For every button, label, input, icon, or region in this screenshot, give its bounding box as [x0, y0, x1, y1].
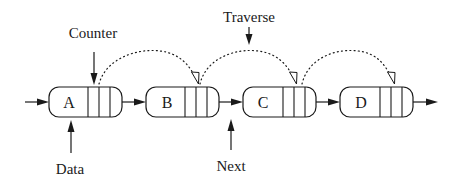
traverse-pointer-arrow-icon [246, 27, 253, 45]
traverse-arc-c-to-d [302, 50, 395, 84]
node-label-c: C [258, 94, 269, 111]
node-label-b: B [162, 94, 173, 111]
node-label-d: D [355, 94, 367, 111]
list-node-d: D [340, 87, 413, 117]
data-pointer-arrow-icon [68, 120, 75, 153]
next-pointer-arrow-icon [316, 99, 340, 106]
next-pointer-arrow-icon [122, 99, 146, 106]
exit-arrow-icon [413, 99, 438, 106]
entry-arrow-icon [25, 99, 49, 106]
data-label: Data [56, 161, 85, 177]
counter-pointer-arrow-icon [91, 52, 98, 85]
node-label-a: A [63, 94, 75, 111]
counter-label: Counter [69, 25, 117, 41]
open-arrowhead-icon [192, 72, 200, 84]
traverse-label: Traverse [223, 9, 275, 25]
next-pointer-arrow-icon [219, 99, 243, 106]
traverse-arc-b-to-c [200, 50, 297, 84]
list-node-b: B [146, 87, 219, 117]
list-node-c: C [243, 87, 316, 117]
open-arrowhead-icon [388, 72, 396, 84]
traverse-arc-a-to-b [99, 50, 199, 84]
open-arrowhead-icon [290, 72, 298, 84]
linked-list-diagram: A B C D [0, 0, 456, 187]
list-node-a: A [49, 87, 122, 117]
next-pointer-arrow-icon [228, 119, 235, 150]
next-label: Next [216, 158, 246, 174]
